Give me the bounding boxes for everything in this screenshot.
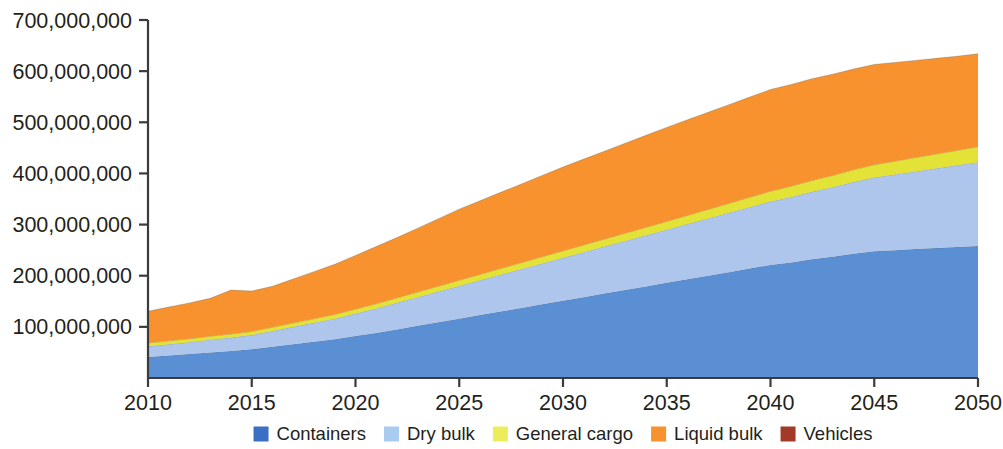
legend-label-containers[interactable]: Containers xyxy=(277,423,366,444)
legend-label-vehicles[interactable]: Vehicles xyxy=(804,423,873,444)
legend-swatch-liquid-bulk[interactable] xyxy=(651,427,666,442)
y-tick-marks xyxy=(139,20,148,327)
stacked-area-chart: 100,000,000200,000,000300,000,000400,000… xyxy=(0,0,1003,449)
x-tick-label: 2020 xyxy=(332,391,380,415)
y-tick-label: 300,000,000 xyxy=(12,213,132,237)
y-tick-label: 700,000,000 xyxy=(12,9,132,33)
legend-swatch-dry-bulk[interactable] xyxy=(384,427,399,442)
y-tick-label: 400,000,000 xyxy=(12,162,132,186)
x-tick-marks xyxy=(148,378,978,387)
y-tick-labels: 100,000,000200,000,000300,000,000400,000… xyxy=(12,9,132,340)
x-tick-label: 2045 xyxy=(850,391,898,415)
x-tick-label: 2040 xyxy=(747,391,795,415)
x-tick-label: 2010 xyxy=(124,391,172,415)
chart-legend: ContainersDry bulkGeneral cargoLiquid bu… xyxy=(254,423,873,444)
x-tick-label: 2050 xyxy=(954,391,1002,415)
y-tick-label: 100,000,000 xyxy=(12,315,132,339)
x-tick-label: 2025 xyxy=(435,391,483,415)
x-tick-label: 2035 xyxy=(643,391,691,415)
legend-label-general-cargo[interactable]: General cargo xyxy=(516,423,633,444)
legend-label-liquid-bulk[interactable]: Liquid bulk xyxy=(674,423,763,444)
legend-swatch-containers[interactable] xyxy=(254,427,269,442)
x-tick-label: 2015 xyxy=(228,391,276,415)
area-bands xyxy=(148,54,978,378)
legend-label-dry-bulk[interactable]: Dry bulk xyxy=(407,423,476,444)
y-tick-label: 200,000,000 xyxy=(12,264,132,288)
legend-swatch-general-cargo[interactable] xyxy=(493,427,508,442)
x-tick-labels: 201020152020202520302035204020452050 xyxy=(124,391,1002,415)
x-tick-label: 2030 xyxy=(539,391,587,415)
chart-canvas: 100,000,000200,000,000300,000,000400,000… xyxy=(0,0,1003,449)
y-tick-label: 500,000,000 xyxy=(12,111,132,135)
legend-swatch-vehicles[interactable] xyxy=(781,427,796,442)
y-tick-label: 600,000,000 xyxy=(12,60,132,84)
